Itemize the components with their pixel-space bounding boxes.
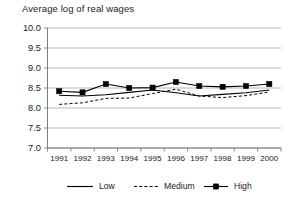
data-point-marker bbox=[197, 83, 202, 88]
legend-label-low: Low bbox=[99, 181, 116, 191]
line-chart: 10.09.59.08.58.07.57.0199119921993199419… bbox=[0, 0, 290, 199]
x-axis: 1991199219931994199519961997199819992000 bbox=[48, 148, 282, 163]
x-axis-tick-label: 1994 bbox=[120, 154, 139, 163]
data-point-marker bbox=[103, 81, 108, 86]
legend-item-low: Low bbox=[67, 181, 116, 191]
data-point-marker bbox=[127, 85, 132, 90]
x-axis-tick-label: 2000 bbox=[260, 154, 279, 163]
series-line-medium bbox=[59, 89, 269, 104]
data-point-marker bbox=[243, 83, 248, 88]
y-axis-tick-label: 8.0 bbox=[28, 103, 41, 113]
x-axis-tick-label: 1997 bbox=[190, 154, 209, 163]
x-axis-tick-label: 1998 bbox=[214, 154, 233, 163]
legend-label-medium: Medium bbox=[164, 181, 195, 191]
y-axis-tick-label: 7.5 bbox=[28, 123, 41, 133]
legend-item-high: High bbox=[204, 181, 252, 191]
chart-legend: LowMediumHigh bbox=[67, 181, 252, 191]
x-axis-tick-label: 1991 bbox=[50, 154, 69, 163]
y-axis-tick-label: 7.0 bbox=[28, 143, 41, 153]
legend-item-medium: Medium bbox=[134, 181, 195, 191]
x-axis-tick-label: 1992 bbox=[74, 154, 93, 163]
x-axis-tick-label: 1999 bbox=[237, 154, 256, 163]
chart-container: Average log of real wages 10.09.59.08.58… bbox=[0, 0, 290, 199]
y-axis-tick-label: 9.5 bbox=[28, 43, 41, 53]
legend-label-high: High bbox=[234, 181, 252, 191]
y-axis-tick-label: 8.5 bbox=[28, 83, 41, 93]
x-axis-tick-label: 1993 bbox=[97, 154, 116, 163]
data-series-group bbox=[57, 79, 272, 104]
data-point-marker bbox=[150, 85, 155, 90]
data-point-marker bbox=[57, 89, 62, 94]
y-axis-tick-label: 10.0 bbox=[23, 23, 41, 33]
data-point-marker bbox=[173, 79, 178, 84]
y-axis-tick-label: 9.0 bbox=[28, 63, 41, 73]
x-axis-tick-label: 1996 bbox=[167, 154, 186, 163]
x-axis-tick-label: 1995 bbox=[144, 154, 163, 163]
legend-marker-high bbox=[213, 184, 218, 189]
data-point-marker bbox=[80, 90, 85, 95]
data-point-marker bbox=[267, 81, 272, 86]
data-point-marker bbox=[220, 84, 225, 89]
